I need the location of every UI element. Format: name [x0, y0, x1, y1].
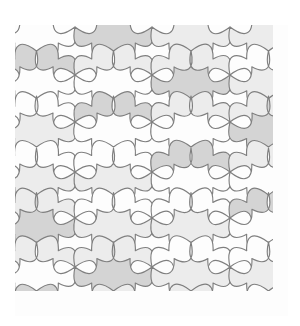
tessellation-plate [15, 25, 288, 316]
tessellation-figure [0, 0, 300, 326]
tessellation-canvas [15, 25, 288, 316]
